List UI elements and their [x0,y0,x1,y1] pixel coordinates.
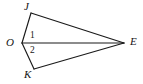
vertex-label-k: K [24,69,31,80]
vertex-label-o: O [6,37,14,48]
geometry-figure: J O K E 1 2 [0,0,143,84]
angle-label-2: 2 [30,46,35,56]
segment-K-E [34,43,124,69]
vertex-label-j: J [24,1,29,12]
vertex-label-e: E [130,36,137,47]
figure-canvas [0,0,143,84]
angle-label-1: 1 [30,31,35,41]
segment-J-E [31,13,124,43]
